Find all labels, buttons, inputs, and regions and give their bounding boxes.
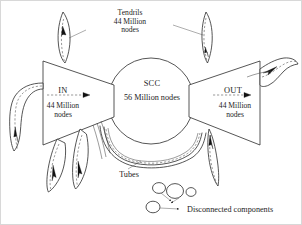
tendril-in-strands [93, 121, 110, 159]
in-node-count-line2: nodes [29, 111, 97, 120]
tendril-bottom-left-1 [47, 139, 66, 192]
tendril-right-hook [260, 58, 298, 87]
out-label: OUT [211, 86, 255, 95]
scc-label: SCC [109, 79, 195, 88]
tendrils-label-line3: nodes [87, 26, 173, 35]
scc-node-count: 56 Million nodes [101, 93, 203, 102]
tendrils-label: Tendrils 44 Million nodes [87, 9, 173, 35]
tendril-top-left [58, 12, 70, 63]
tendril-bottom-right [208, 129, 219, 186]
disconnected-components-label: Disconnected components [187, 205, 301, 214]
tubes-label: Tubes [106, 170, 152, 179]
in-node-count: 44 Million nodes [29, 102, 97, 119]
out-node-count-line2: nodes [201, 111, 269, 120]
out-node-count: 44 Million nodes [201, 102, 269, 119]
bowtie-diagram: Tendrils 44 Million nodes SCC 56 Million… [0, 0, 302, 225]
tendril-bottom-left-2 [73, 129, 89, 189]
tendril-top-right [202, 12, 212, 63]
in-label: IN [41, 86, 85, 95]
